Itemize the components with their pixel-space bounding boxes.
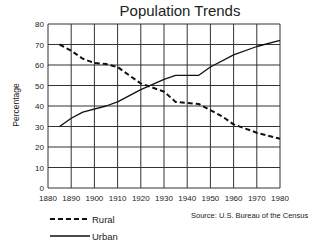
y-tick-label: 70	[35, 41, 44, 50]
y-tick-label: 0	[40, 184, 45, 193]
x-tick-label: 1940	[178, 194, 196, 203]
x-tick-label: 1900	[86, 194, 104, 203]
x-tick-label: 1910	[109, 194, 127, 203]
x-tick-label: 1890	[62, 194, 80, 203]
series-line-urban	[60, 40, 280, 126]
x-tick-label: 1880	[39, 194, 57, 203]
x-tick-label: 1980	[271, 194, 289, 203]
y-tick-label: 50	[35, 82, 44, 91]
y-tick-label: 80	[35, 20, 44, 29]
y-tick-label: 60	[35, 61, 44, 70]
y-tick-label: 40	[35, 102, 44, 111]
legend-urban-label: Urban	[92, 231, 118, 242]
x-tick-label: 1950	[202, 194, 220, 203]
source-note: Source: U.S. Bureau of the Census	[191, 211, 308, 220]
line-chart: 1880189019001910192019301940195019601970…	[0, 0, 320, 247]
x-tick-label: 1930	[155, 194, 173, 203]
x-tick-label: 1970	[248, 194, 266, 203]
legend-rural-label: Rural	[92, 214, 115, 225]
y-tick-label: 30	[35, 123, 44, 132]
x-tick-label: 1960	[225, 194, 243, 203]
x-tick-label: 1920	[132, 194, 150, 203]
y-tick-label: 20	[35, 143, 44, 152]
series-line-rural	[60, 45, 280, 139]
y-tick-label: 10	[35, 164, 44, 173]
